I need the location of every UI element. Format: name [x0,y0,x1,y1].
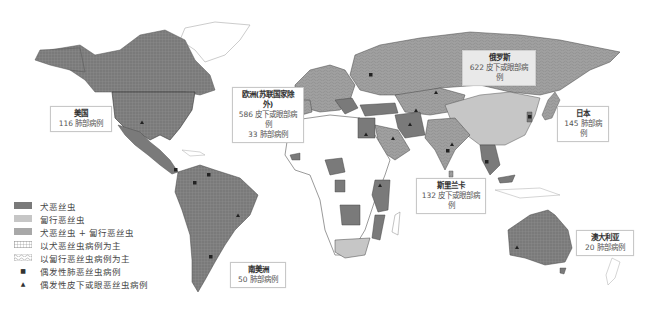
legend-item-immitis: 犬恶丝虫 [14,199,148,212]
callout-australia: 澳大利亚 20 肺部病例 [576,230,634,256]
region-indonesia [495,188,560,198]
callout-sri-lanka-title: 斯里兰卡 [421,181,481,191]
callout-europe-line2: 33 肺部病例 [237,130,299,140]
region-australia [508,210,572,265]
legend-swatch-light [14,215,32,222]
legend-swatch-medium [14,228,32,235]
region-kenya-tanzania [372,180,390,212]
legend-item-repens-predominant: 以匐行恶丝虫病例为主 [14,251,148,264]
region-alaska [35,48,85,72]
region-mozambique [372,215,385,240]
callout-usa: 美国 116 肺部病例 [50,106,112,132]
callout-russia-title: 俄罗斯 [467,53,531,63]
callout-usa-line1: 116 肺部病例 [55,119,107,129]
region-new-zealand [606,258,620,285]
legend-label: 偶发性皮下或眼恶丝虫病例 [40,278,148,290]
callout-australia-line1: 20 肺部病例 [581,243,629,253]
legend-label: 匐行恶丝虫 [40,213,85,225]
square-marker-icon: ■ [14,267,32,274]
legend-item-both: 犬恶丝虫 + 匐行恶丝虫 [14,225,148,238]
legend-swatch-wave-pattern [14,254,32,261]
triangle-marker-icon: ▲ [14,280,32,287]
callout-russia: 俄罗斯 622 皮下或眼部病例 [462,50,536,86]
legend-label: 以犬恶丝虫病例为主 [40,239,121,251]
callout-australia-title: 澳大利亚 [581,233,629,243]
callout-japan-title: 日本 [562,109,604,119]
legend-item-pulmonary: ■ 偶发性肺恶丝虫病例 [14,264,148,277]
callout-europe-title: 欧洲(苏联国家除外) [237,90,299,110]
region-tasmania [560,268,566,274]
region-gabon [335,180,345,192]
callout-south-america-title: 南美洲 [235,265,281,275]
legend-item-repens: 匐行恶丝虫 [14,212,148,225]
legend-label: 以匐行恶丝虫病例为主 [40,252,130,264]
legend-swatch-dark [14,202,32,209]
legend-label: 偶发性肺恶丝虫病例 [40,265,121,277]
callout-south-america-line1: 50 肺部病例 [235,275,281,285]
map-legend: 犬恶丝虫 匐行恶丝虫 犬恶丝虫 + 匐行恶丝虫 以犬恶丝虫病例为主 以匐行恶丝虫… [14,199,148,290]
region-madagascar [392,212,400,235]
region-turkey [360,103,398,116]
callout-europe: 欧洲(苏联国家除外) 586 皮下或眼部病例 33 肺部病例 [232,87,304,143]
callout-russia-line1: 622 皮下或眼部病例 [467,63,531,83]
callout-sri-lanka: 斯里兰卡 132 皮下或眼部病例 [416,178,486,214]
callout-japan-line1: 145 肺部病例 [562,119,604,139]
region-angola [340,205,360,225]
legend-label: 犬恶丝虫 + 匐行恶丝虫 [40,226,134,238]
callout-usa-title: 美国 [55,109,107,119]
legend-label: 犬恶丝虫 [40,200,76,212]
region-south-africa [335,238,370,258]
legend-item-subcutaneous: ▲ 偶发性皮下或眼恶丝虫病例 [14,277,148,290]
callout-south-america: 南美洲 50 肺部病例 [230,262,286,288]
callout-japan: 日本 145 肺部病例 [557,106,609,142]
callout-europe-line1: 586 皮下或眼部病例 [237,110,299,130]
region-caribbean [182,150,205,156]
region-se-asia [480,145,500,175]
region-malaysia [498,175,515,183]
legend-item-immitis-predominant: 以犬恶丝虫病例为主 [14,238,148,251]
region-sri-lanka [449,171,453,177]
legend-swatch-grid-pattern [14,241,32,248]
callout-sri-lanka-line1: 132 皮下或眼部病例 [421,191,481,211]
